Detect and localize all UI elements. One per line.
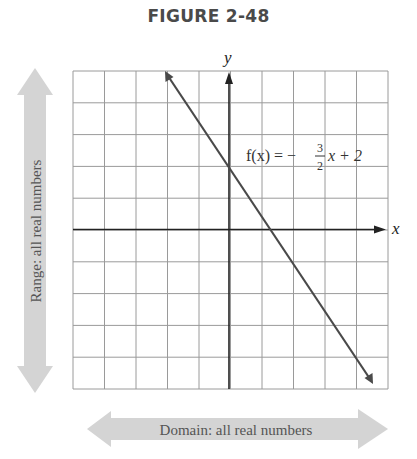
line-arrow-end-icon (365, 373, 374, 384)
function-label-suffix: x + 2 (327, 147, 362, 164)
x-axis-arrow-icon (374, 226, 386, 234)
line-arrow-start-icon (165, 71, 174, 82)
function-label-prefix: f(x) = − (246, 147, 296, 165)
x-axis-label: x (391, 219, 400, 238)
function-label-numerator: 3 (317, 141, 323, 155)
function-line (165, 71, 373, 384)
function-label-denominator: 2 (317, 159, 323, 173)
domain-label: Domain: all real numbers (160, 422, 313, 438)
y-axis-label: y (222, 48, 232, 67)
range-label: Range: all real numbers (28, 159, 44, 302)
function-label: f(x) = − 3 2 x + 2 (246, 141, 362, 173)
y-axis-arrow-icon (225, 72, 233, 84)
graph-canvas: Range: all real numbers Domain: all real… (0, 0, 417, 459)
